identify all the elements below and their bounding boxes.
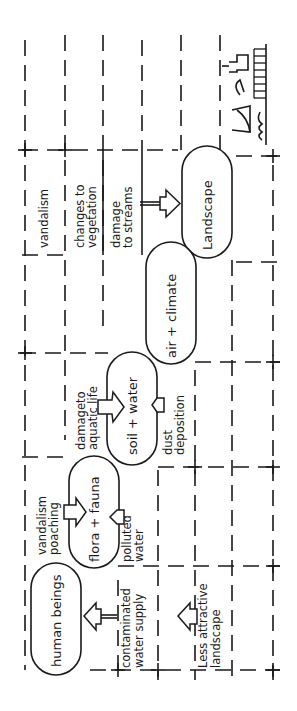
impact-contaminated-water-2: water supply <box>132 594 146 668</box>
impact-contaminated-water-1: contaminated <box>119 588 133 668</box>
impact-dust-deposition-2: deposition <box>173 395 187 455</box>
node-label: soil + water <box>125 376 140 455</box>
node-landscape: Landscape <box>182 146 232 258</box>
impact-damage-aquatic-life-2: aquatic life <box>86 386 100 450</box>
impact-less-attractive-1: Less attractive <box>196 583 210 668</box>
node-label: flora + fauna <box>87 476 102 562</box>
node-label: Landscape <box>200 180 215 250</box>
impact-vandalism: vandalism <box>37 189 51 248</box>
impact-polluted-water-2: water <box>132 529 146 562</box>
arrow-less-attractive-icon <box>178 603 197 630</box>
industrial-site-sketch-icon <box>222 44 266 145</box>
impact-less-attractive-2: landscape <box>209 609 223 668</box>
arrow-contaminated-to-human-icon <box>84 603 117 630</box>
node-label: human beings <box>49 574 64 667</box>
impact-damage-to-streams-2: to streams <box>121 186 135 248</box>
node-air-climate: air + climate <box>146 242 196 364</box>
impact-vandalism-poaching-2: poaching <box>47 502 61 555</box>
arrow-streams-to-landscape-icon <box>140 190 180 217</box>
node-label: air + climate <box>164 274 179 358</box>
impact-diagram: Landscape air + climate soil + water flo… <box>0 0 297 711</box>
impact-changes-to-vegetation-2: vegetation <box>85 186 99 248</box>
node-human-beings: human beings <box>31 563 81 675</box>
